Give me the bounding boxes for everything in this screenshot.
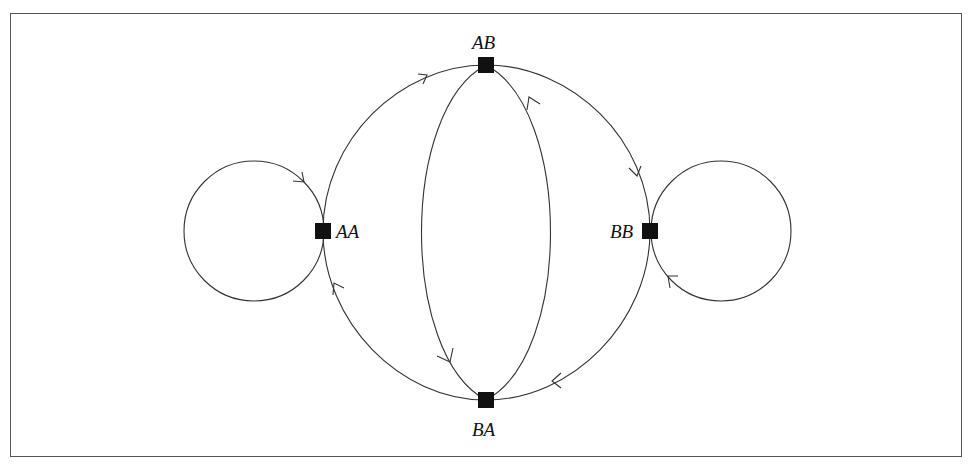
edge-AB-to-BA [422,65,487,400]
arrow-icon-BA-to-AB [527,97,540,110]
edge-BA-to-AB [486,65,551,400]
node-BA [478,392,494,408]
node-BB [642,223,658,239]
edge-BB-to-BA [486,231,650,400]
node-AB [478,57,494,73]
node-label-BB: BB [610,221,634,242]
edge-BB-self-loop [651,161,791,301]
node-label-AB: AB [470,32,496,53]
node-AA [315,223,331,239]
state-diagram: AB AA BB BA [0,0,977,464]
arrow-icon-BA-to-AA [333,283,344,295]
node-label-BA: BA [472,419,496,440]
edge-BA-to-AA [323,231,486,400]
arrow-icon-AB-to-BA [437,348,453,362]
edge-AB-to-BB [486,65,650,231]
node-label-AA: AA [334,221,360,242]
edge-AA-to-AB [323,65,486,231]
